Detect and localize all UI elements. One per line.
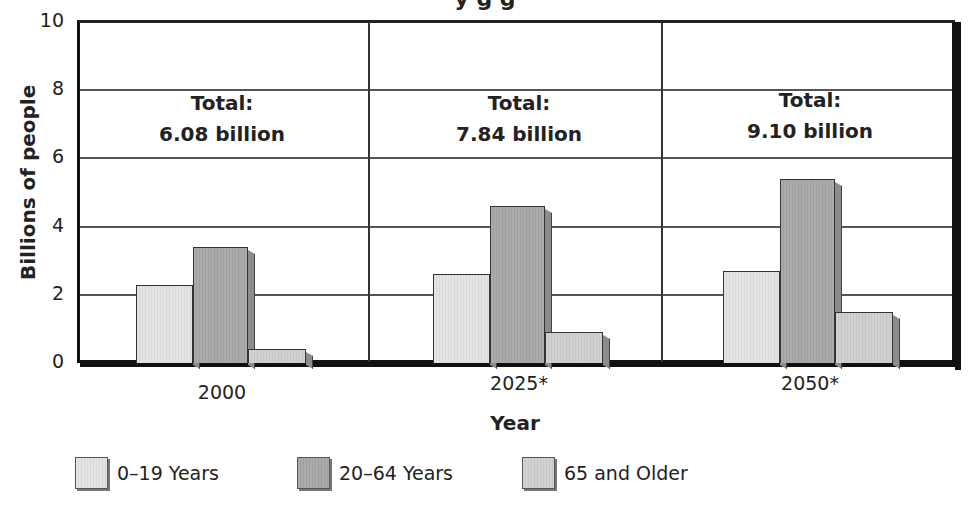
total-label: Total:	[710, 85, 910, 116]
total-value: 7.84 billion	[419, 119, 619, 150]
bar-65-plus-2025	[545, 332, 603, 363]
total-value: 9.10 billion	[710, 116, 910, 147]
y-tick-label: 0	[34, 350, 64, 372]
bar-65-plus-2050	[835, 312, 893, 363]
bar-20-64-2025	[490, 206, 545, 363]
y-tick-label: 10	[34, 9, 64, 31]
legend-item: 65 and Older	[522, 453, 688, 493]
x-tick-label: 2025*	[459, 372, 579, 394]
bar-65-plus-2000	[248, 349, 306, 363]
total-label: Total:	[419, 88, 619, 119]
bar-20-64-2050	[780, 179, 835, 363]
chart-title-cropped: y g g	[250, 0, 720, 11]
total-annotation: Total:7.84 billion	[419, 88, 619, 150]
x-tick-label: 2050*	[750, 372, 870, 394]
legend-swatch	[297, 457, 330, 489]
group-divider	[368, 22, 370, 362]
bar-0-19-2025	[433, 274, 490, 363]
legend-label: 20–64 Years	[339, 462, 453, 484]
total-value: 6.08 billion	[122, 119, 322, 150]
bar-0-19-2000	[136, 285, 193, 363]
x-tick-label: 2000	[162, 381, 282, 403]
legend-label: 0–19 Years	[117, 462, 219, 484]
bar-0-19-2050	[723, 271, 780, 363]
gridline	[80, 157, 952, 159]
bar-20-64-2000	[193, 247, 248, 363]
total-annotation: Total:9.10 billion	[710, 85, 910, 147]
total-label: Total:	[122, 88, 322, 119]
plot-shadow-right	[955, 22, 961, 370]
group-divider	[661, 22, 663, 362]
x-axis-label: Year	[455, 411, 575, 435]
total-annotation: Total:6.08 billion	[122, 88, 322, 150]
y-tick-label: 2	[34, 282, 64, 304]
legend-swatch	[522, 457, 555, 489]
legend-swatch	[75, 457, 108, 489]
legend-item: 0–19 Years	[75, 453, 219, 493]
y-axis-label: Billions of people	[16, 100, 40, 280]
legend-item: 20–64 Years	[297, 453, 453, 493]
legend-label: 65 and Older	[564, 462, 688, 484]
